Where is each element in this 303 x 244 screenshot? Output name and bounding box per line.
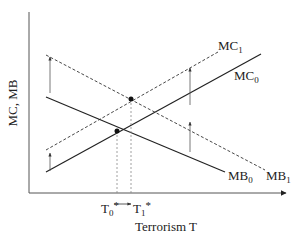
curve-label-mb0: MB0 — [228, 168, 253, 185]
curves-group — [46, 52, 265, 172]
equilibrium-point-t1 — [129, 97, 134, 102]
shift-arrows-group — [50, 57, 190, 171]
economics-diagram: MC0MC1MB0MB1T0*T1* MC, MB Terrorism T — [0, 0, 303, 244]
curve-label-mc0: MC0 — [234, 68, 259, 85]
y-axis-label: MC, MB — [5, 79, 20, 126]
curve-label-mb1: MB1 — [266, 168, 291, 185]
tick-label-t1: T1* — [133, 199, 151, 218]
guides-group — [115, 97, 134, 194]
tick-label-t0: T0* — [101, 199, 119, 218]
x-axis-label: Terrorism T — [135, 219, 197, 234]
equilibrium-point-t0 — [115, 129, 120, 134]
curve-label-mc1: MC1 — [218, 38, 243, 55]
